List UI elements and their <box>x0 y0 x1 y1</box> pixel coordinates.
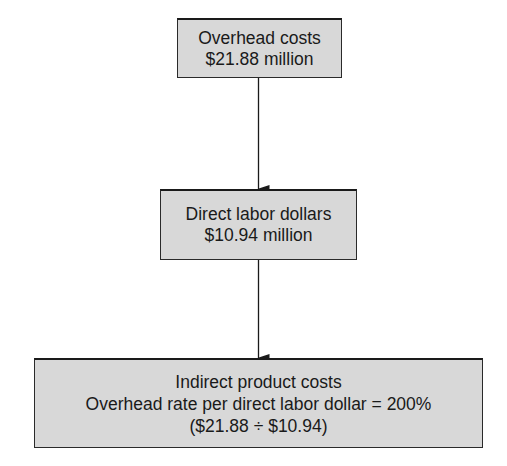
node-overhead-costs: Overhead costs $21.88 million <box>177 18 342 78</box>
node-value: $10.94 million <box>205 225 313 246</box>
node-direct-labor-dollars: Direct labor dollars $10.94 million <box>160 189 357 260</box>
node-value: $21.88 million <box>206 49 314 70</box>
node-title: Indirect product costs <box>175 371 341 393</box>
node-rate: Overhead rate per direct labor dollar = … <box>86 393 432 415</box>
node-formula: ($21.88 ÷ $10.94) <box>189 415 327 437</box>
node-title: Direct labor dollars <box>186 204 332 225</box>
node-title: Overhead costs <box>198 28 321 49</box>
node-indirect-product-costs: Indirect product costs Overhead rate per… <box>34 358 483 448</box>
